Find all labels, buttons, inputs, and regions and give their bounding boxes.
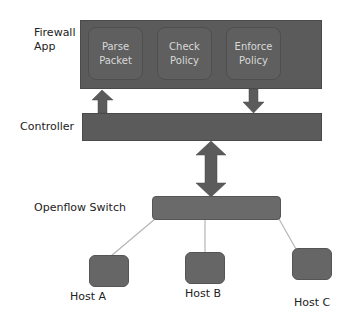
module-text: Enforce — [235, 40, 273, 54]
module-text: Parse — [102, 40, 129, 54]
bidirectional-arrow-icon — [196, 141, 226, 197]
host-a-label: Host A — [70, 290, 106, 304]
up-arrow-icon — [92, 90, 113, 113]
module-text: Check — [169, 40, 200, 54]
module-text: Packet — [99, 54, 132, 68]
switch-label: Openflow Switch — [34, 201, 126, 215]
firewall-app-box: Parse Packet Check Policy Enforce Policy — [80, 20, 322, 89]
controller-label: Controller — [20, 120, 74, 134]
firewall-app-label-line2: App — [34, 40, 75, 54]
host-c-label: Host C — [294, 296, 330, 310]
firewall-app-label: Firewall App — [34, 26, 75, 54]
firewall-app-label-line1: Firewall — [34, 26, 75, 40]
host-b-label: Host B — [185, 287, 221, 301]
openflow-switch-box — [152, 196, 281, 220]
link-host-a — [111, 219, 155, 256]
controller-bar — [82, 113, 322, 141]
module-text: Policy — [170, 54, 199, 68]
host-a-box — [89, 255, 129, 287]
host-c-box — [292, 248, 332, 280]
module-text: Policy — [239, 54, 268, 68]
down-arrow-icon — [243, 89, 264, 113]
module-check-policy: Check Policy — [157, 27, 212, 80]
module-parse-packet: Parse Packet — [88, 27, 143, 80]
link-host-c — [279, 219, 296, 249]
module-enforce-policy: Enforce Policy — [226, 27, 281, 80]
host-b-box — [185, 252, 225, 284]
